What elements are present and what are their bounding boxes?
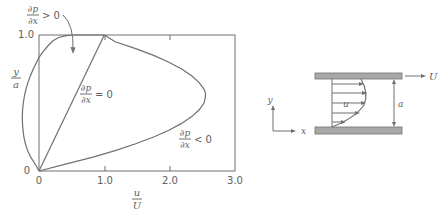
x-axis-label-den: U bbox=[133, 200, 142, 211]
svg-text:< 0: < 0 bbox=[194, 134, 212, 145]
coordinate-axes: y x bbox=[266, 95, 306, 136]
axis-label-y: y bbox=[266, 95, 273, 105]
svg-text:∂p: ∂p bbox=[81, 83, 92, 93]
svg-text:∂p: ∂p bbox=[28, 4, 39, 14]
y-tick-label-bottom: 0 bbox=[24, 165, 30, 176]
label-negative-gradient: ∂p ∂x < 0 bbox=[179, 128, 212, 150]
top-plate bbox=[315, 73, 402, 79]
y-axis-label-den: a bbox=[13, 79, 19, 90]
plot-frame bbox=[39, 35, 235, 171]
x-tick-label-2: 2.0 bbox=[162, 175, 178, 186]
figure: 0 1.0 2.0 3.0 1.0 0 y a u U ∂p ∂x bbox=[0, 0, 447, 212]
svg-text:∂x: ∂x bbox=[180, 140, 190, 150]
y-tick-label-top: 1.0 bbox=[18, 29, 34, 40]
x-tick-label-1: 1.0 bbox=[97, 175, 113, 186]
pointer-arrow bbox=[63, 15, 73, 50]
velocity-label: u bbox=[343, 99, 349, 109]
plate-velocity-label: U bbox=[429, 71, 438, 82]
curve-negative-gradient bbox=[39, 35, 206, 171]
x-axis-label-num: u bbox=[134, 187, 140, 198]
x-tick-label-3: 3.0 bbox=[227, 175, 243, 186]
y-axis-label-num: y bbox=[12, 66, 19, 77]
y-axis-label: y a bbox=[11, 66, 21, 90]
label-positive-gradient: ∂p ∂x > 0 bbox=[27, 4, 76, 54]
plot-area: 0 1.0 2.0 3.0 1.0 0 y a u U ∂p ∂x bbox=[11, 4, 243, 211]
svg-text:∂x: ∂x bbox=[81, 95, 91, 105]
svg-text:= 0: = 0 bbox=[95, 89, 113, 100]
svg-text:∂x: ∂x bbox=[28, 16, 38, 26]
bottom-plate bbox=[315, 127, 402, 134]
gap-label: a bbox=[398, 99, 403, 109]
x-axis-label: u U bbox=[132, 187, 142, 211]
curve-positive-gradient bbox=[22, 35, 104, 171]
channel-schematic: y x U u a bbox=[266, 71, 438, 136]
x-tick-label-0: 0 bbox=[36, 175, 42, 186]
svg-text:> 0: > 0 bbox=[42, 10, 60, 21]
svg-text:∂p: ∂p bbox=[180, 128, 191, 138]
axis-label-x: x bbox=[301, 126, 306, 136]
label-zero-gradient: ∂p ∂x = 0 bbox=[80, 83, 113, 105]
curve-zero-gradient bbox=[39, 35, 104, 171]
